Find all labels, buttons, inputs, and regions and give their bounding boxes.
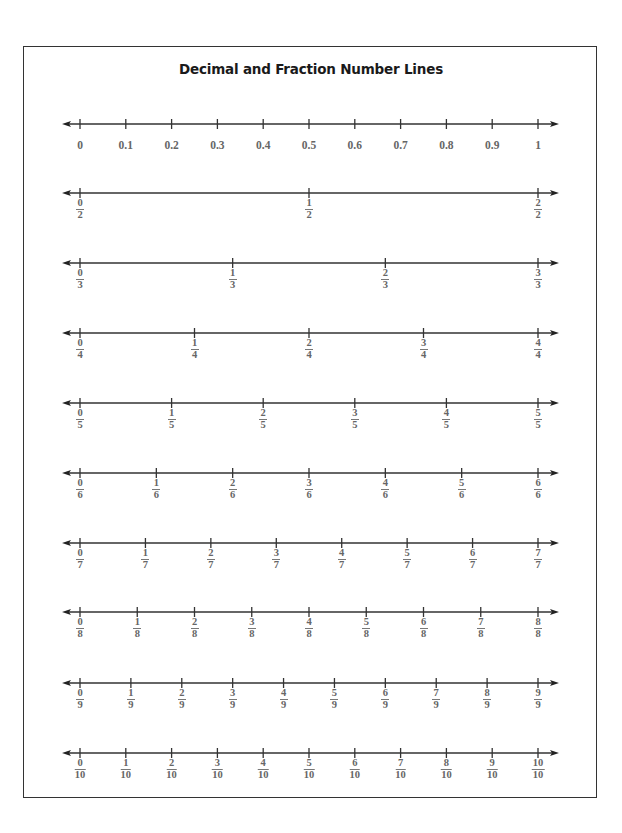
- number-line-axis: [0, 533, 622, 553]
- fraction-label: 17: [141, 548, 149, 570]
- denominator: 4: [192, 350, 197, 360]
- number-line-fraction-5: 051525354555: [0, 393, 622, 443]
- fraction-label: 04: [76, 338, 84, 360]
- denominator: 8: [478, 629, 483, 639]
- decimal-label: 0.9: [485, 139, 499, 151]
- number-line-axis: [0, 114, 622, 134]
- denominator: 9: [535, 700, 540, 710]
- fraction-label: 48: [305, 617, 313, 639]
- number-line-axis: [0, 393, 622, 413]
- numerator: 1: [153, 478, 160, 488]
- fraction-label: 39: [229, 688, 237, 710]
- denominator: 9: [128, 700, 133, 710]
- denominator: 10: [121, 770, 132, 780]
- numerator: 4: [338, 548, 345, 558]
- denominator: 4: [306, 350, 311, 360]
- denominator: 10: [441, 770, 452, 780]
- number-line-fraction-8: 081828384858687888: [0, 602, 622, 652]
- numerator: 0: [76, 548, 83, 558]
- denominator: 9: [332, 700, 337, 710]
- fraction-label: 27: [207, 548, 215, 570]
- denominator: 6: [230, 490, 235, 500]
- decimal-label: 1: [535, 139, 541, 151]
- numerator: 4: [443, 408, 450, 418]
- fraction-label: 77: [534, 548, 542, 570]
- denominator: 8: [249, 629, 254, 639]
- number-line-fraction-10: 0101102103104105106107108109101010: [0, 743, 622, 793]
- denominator: 3: [77, 280, 82, 290]
- numerator: 2: [305, 338, 312, 348]
- fraction-label: 02: [76, 198, 84, 220]
- fraction-label: 66: [534, 478, 542, 500]
- fraction-label: 09: [76, 688, 84, 710]
- numerator: 9: [489, 758, 496, 768]
- denominator: 9: [434, 700, 439, 710]
- decimal-label: 0.7: [393, 139, 407, 151]
- numerator: 2: [260, 408, 267, 418]
- numerator: 7: [534, 548, 541, 558]
- denominator: 9: [179, 700, 184, 710]
- denominator: 10: [533, 770, 544, 780]
- fraction-label: 38: [248, 617, 256, 639]
- fraction-label: 610: [350, 758, 361, 780]
- numerator: 3: [351, 408, 358, 418]
- denominator: 8: [306, 629, 311, 639]
- numerator: 7: [433, 688, 440, 698]
- numerator: 4: [382, 478, 389, 488]
- decimal-label: 0.4: [256, 139, 270, 151]
- numerator: 6: [469, 548, 476, 558]
- numerator: 9: [534, 688, 541, 698]
- fraction-label: 26: [229, 478, 237, 500]
- numerator: 5: [305, 758, 312, 768]
- decimal-label: 0.1: [119, 139, 133, 151]
- denominator: 5: [169, 420, 174, 430]
- denominator: 5: [352, 420, 357, 430]
- fraction-label: 010: [75, 758, 86, 780]
- numerator: 3: [214, 758, 221, 768]
- numerator: 6: [420, 617, 427, 627]
- numerator: 1: [305, 198, 312, 208]
- fraction-label: 35: [351, 408, 359, 430]
- numerator: 2: [191, 617, 198, 627]
- fraction-label: 36: [305, 478, 313, 500]
- denominator: 3: [535, 280, 540, 290]
- fraction-label: 25: [259, 408, 267, 430]
- numerator: 0: [76, 688, 83, 698]
- denominator: 6: [77, 490, 82, 500]
- fraction-label: 29: [178, 688, 186, 710]
- number-line-axis: [0, 673, 622, 693]
- denominator: 4: [77, 350, 82, 360]
- denominator: 4: [421, 350, 426, 360]
- numerator: 3: [305, 478, 312, 488]
- fraction-label: 1010: [532, 758, 545, 780]
- fraction-label: 110: [121, 758, 132, 780]
- denominator: 6: [306, 490, 311, 500]
- fraction-label: 910: [487, 758, 498, 780]
- numerator: 0: [76, 338, 83, 348]
- numerator: 1: [191, 338, 198, 348]
- fraction-label: 59: [330, 688, 338, 710]
- decimal-label: 0.6: [348, 139, 362, 151]
- denominator: 10: [487, 770, 498, 780]
- fraction-label: 810: [441, 758, 452, 780]
- decimal-label: 0.3: [210, 139, 224, 151]
- denominator: 7: [77, 560, 82, 570]
- numerator: 5: [404, 548, 411, 558]
- fraction-label: 57: [403, 548, 411, 570]
- number-line-fraction-9: 09192939495969798999: [0, 673, 622, 723]
- denominator: 3: [230, 280, 235, 290]
- numerator: 0: [76, 198, 83, 208]
- numerator: 1: [122, 758, 129, 768]
- fraction-label: 47: [338, 548, 346, 570]
- numerator: 6: [382, 688, 389, 698]
- fraction-label: 14: [191, 338, 199, 360]
- number-line-axis: [0, 253, 622, 273]
- numerator: 0: [76, 408, 83, 418]
- fraction-label: 05: [76, 408, 84, 430]
- numerator: 1: [229, 268, 236, 278]
- numerator: 4: [280, 688, 287, 698]
- numerator: 0: [76, 268, 83, 278]
- numerator: 8: [483, 688, 490, 698]
- number-line-fraction-6: 06162636465666: [0, 463, 622, 513]
- numerator: 3: [229, 688, 236, 698]
